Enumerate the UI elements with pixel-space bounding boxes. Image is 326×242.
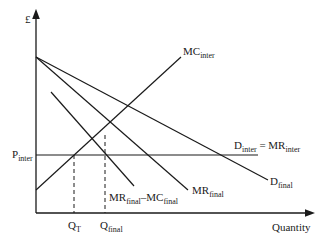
mr-final-label: MRfinal bbox=[192, 185, 224, 199]
mc-inter-label: MCinter bbox=[183, 46, 215, 60]
d-final-label: Dfinal bbox=[270, 176, 293, 190]
qfinal-label: Qfinal bbox=[100, 220, 123, 234]
d-final-line bbox=[36, 57, 268, 180]
x-axis-label: Quantity bbox=[272, 222, 311, 233]
mr-final-line bbox=[36, 57, 188, 190]
qt-label: QT bbox=[68, 220, 81, 234]
mc-inter-line bbox=[36, 57, 181, 190]
d-inter-label: Dinter = MRinter bbox=[234, 140, 300, 154]
y-axis-label: £ bbox=[25, 14, 31, 25]
mr-minus-mc-label: MRfinal–MCfinal bbox=[109, 192, 178, 206]
p-inter-label: Pinter bbox=[12, 149, 33, 163]
